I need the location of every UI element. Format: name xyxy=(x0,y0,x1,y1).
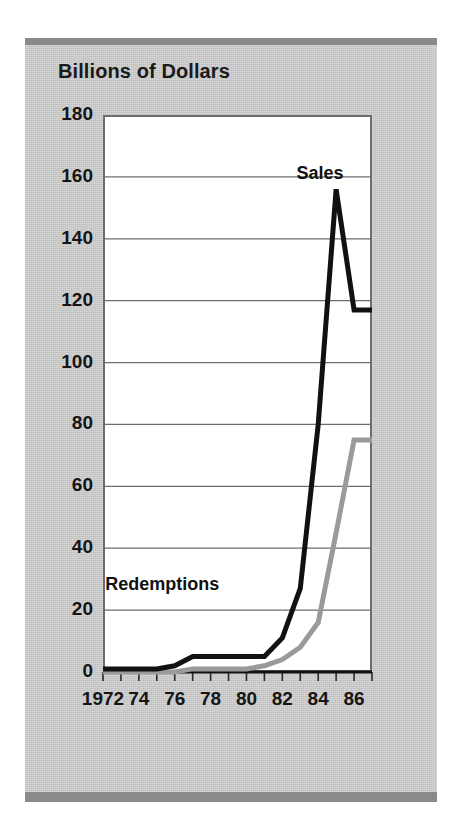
series-label-sales: Sales xyxy=(296,163,343,184)
y-axis-tick-label: 120 xyxy=(21,289,93,311)
chart-figure: Billions of Dollars 18016014012010080604… xyxy=(0,0,457,837)
top-text-fragment xyxy=(0,0,457,16)
y-axis-tick-label: 20 xyxy=(21,598,93,620)
y-axis-tick-label: 0 xyxy=(21,660,93,682)
y-axis-tick-label: 100 xyxy=(21,351,93,373)
panel-bottom-rule xyxy=(25,792,437,802)
series-line-redemptions xyxy=(103,440,372,672)
series-label-redemptions: Redemptions xyxy=(105,574,219,595)
y-axis-tick-label: 40 xyxy=(21,536,93,558)
panel-top-rule xyxy=(25,38,437,45)
y-axis-tick-label: 80 xyxy=(21,412,93,434)
y-axis-tick-label: 60 xyxy=(21,474,93,496)
series-line-sales xyxy=(103,189,372,669)
y-axis-tick-label: 160 xyxy=(21,165,93,187)
x-axis-tick-label: 86 xyxy=(324,688,384,710)
y-axis-tick-label: 180 xyxy=(21,103,93,125)
chart-axis-title: Billions of Dollars xyxy=(58,60,230,83)
y-axis-tick-label: 140 xyxy=(21,227,93,249)
